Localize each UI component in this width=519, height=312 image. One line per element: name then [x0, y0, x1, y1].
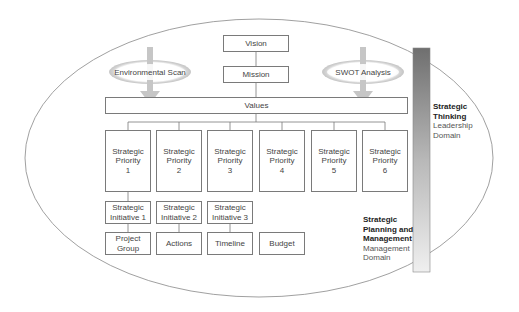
initiative-line1: Strategic	[112, 203, 144, 213]
priority-number: 3	[228, 166, 232, 176]
component-label: Budget	[269, 239, 294, 249]
mission-label: Mission	[242, 70, 269, 80]
priority-line1: Strategic	[369, 147, 401, 157]
values-box: Values	[105, 97, 408, 114]
strategic-priority-3: StrategicPriority3	[207, 130, 253, 192]
vision-label: Vision	[245, 39, 267, 49]
component-label: Timeline	[215, 239, 245, 249]
thinking-sub-2: Domain	[433, 131, 473, 141]
priority-number: 4	[280, 166, 284, 176]
priority-line2: Priority	[167, 156, 192, 166]
strategic-priority-1: StrategicPriority1	[105, 130, 151, 192]
thinking-sub-1: Leadership	[433, 121, 473, 131]
initiative-line1: Strategic	[214, 203, 246, 213]
strategic-priority-6: StrategicPriority6	[362, 130, 408, 192]
planning-bold-3: Management	[363, 234, 413, 244]
strategic-priority-5: StrategicPriority5	[311, 130, 357, 192]
priority-number: 2	[177, 166, 181, 176]
planning-bold-2: Planning and	[363, 225, 413, 235]
priority-line2: Priority	[322, 156, 347, 166]
strategic-initiative-1: StrategicInitiative 1	[105, 201, 151, 224]
environmental-scan-label: Environmental Scan	[114, 68, 186, 77]
priority-line2: Priority	[270, 156, 295, 166]
planning-bold-1: Strategic	[363, 215, 413, 225]
strategic-initiative-2: StrategicInitiative 2	[156, 201, 202, 224]
swot-analysis-label: SWOT Analysis	[335, 68, 390, 77]
component-line2: Group	[117, 244, 139, 254]
project-group-box: ProjectGroup	[105, 232, 151, 255]
initiative-line2: Initiative 2	[161, 213, 197, 223]
budget-box: Budget	[259, 232, 305, 255]
priority-line1: Strategic	[266, 147, 298, 157]
priority-number: 6	[383, 166, 387, 176]
strategic-priority-2: StrategicPriority2	[156, 130, 202, 192]
initiative-line2: Initiative 1	[110, 213, 146, 223]
priority-number: 1	[126, 166, 130, 176]
initiative-line2: Initiative 3	[212, 213, 248, 223]
priority-line1: Strategic	[112, 147, 144, 157]
domain-gradient-bar	[413, 48, 430, 272]
priority-line2: Priority	[116, 156, 141, 166]
planning-sub-2: Domain	[363, 253, 413, 263]
timeline-box: Timeline	[207, 232, 253, 255]
strategic-initiative-3: StrategicInitiative 3	[207, 201, 253, 224]
values-label: Values	[245, 101, 269, 111]
thinking-bold-2: Thinking	[433, 112, 473, 122]
priority-line1: Strategic	[214, 147, 246, 157]
component-line1: Project	[116, 234, 141, 244]
priority-line2: Priority	[218, 156, 243, 166]
priority-line1: Strategic	[163, 147, 195, 157]
thinking-bold-1: Strategic	[433, 102, 473, 112]
strategic-thinking-label: Strategic Thinking Leadership Domain	[433, 102, 473, 140]
priority-line1: Strategic	[318, 147, 350, 157]
priority-number: 5	[332, 166, 336, 176]
mission-box: Mission	[223, 66, 289, 83]
strategic-priority-4: StrategicPriority4	[259, 130, 305, 192]
actions-box: Actions	[156, 232, 202, 255]
initiative-line1: Strategic	[163, 203, 195, 213]
component-label: Actions	[166, 239, 192, 249]
priority-line2: Priority	[373, 156, 398, 166]
planning-sub-1: Management	[363, 244, 413, 254]
strategic-planning-label: Strategic Planning and Management Manage…	[363, 215, 413, 263]
vision-box: Vision	[223, 35, 289, 52]
